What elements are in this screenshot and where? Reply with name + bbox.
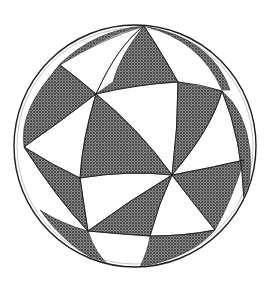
sphere-diagram: Sphere partitioned by great circles into… xyxy=(0,0,270,284)
sphere-svg xyxy=(0,0,270,284)
